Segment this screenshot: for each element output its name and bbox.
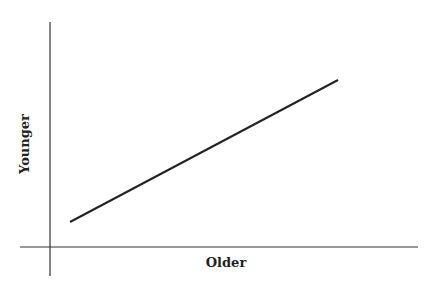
diagram-canvas (0, 0, 435, 289)
y-axis-label: Younger (17, 114, 32, 174)
trend-line (70, 80, 338, 222)
x-axis-label: Older (206, 255, 246, 270)
